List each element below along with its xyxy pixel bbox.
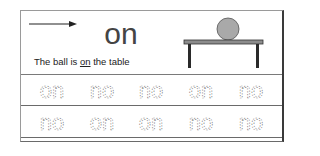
sentence-before: The ball is <box>34 56 80 67</box>
trace-word[interactable]: no <box>82 77 122 103</box>
trace-word[interactable]: no <box>131 77 171 103</box>
trace-word[interactable]: no <box>181 109 221 135</box>
trace-word[interactable]: on <box>181 77 221 103</box>
svg-text:on: on <box>40 78 64 103</box>
sentence-highlight-word: on <box>80 56 91 67</box>
svg-text:no: no <box>139 78 163 103</box>
trace-word[interactable]: on <box>32 77 72 103</box>
sentence-after: the table <box>91 56 130 67</box>
svg-text:no: no <box>189 110 213 135</box>
right-arrow-icon <box>29 21 77 27</box>
svg-text:no: no <box>89 78 113 103</box>
trace-word[interactable]: no <box>32 109 72 135</box>
table-icon <box>184 40 263 68</box>
svg-text:no: no <box>40 110 64 135</box>
trace-word[interactable]: on <box>82 109 122 135</box>
svg-text:on: on <box>89 110 113 135</box>
trace-word[interactable]: no <box>231 77 271 103</box>
trace-row-2: no on on no no <box>21 106 282 138</box>
worksheet-header: on The ball is on the table <box>21 11 282 75</box>
ball-on-table-illustration <box>181 15 265 71</box>
trace-word[interactable]: on <box>131 109 171 135</box>
trace-word[interactable]: no <box>231 109 271 135</box>
trace-row-1: on no no on no <box>21 75 282 106</box>
worksheet: on The ball is on the table on no no on … <box>20 10 284 142</box>
svg-text:no: no <box>239 78 263 103</box>
example-sentence: The ball is on the table <box>34 56 130 67</box>
svg-text:on: on <box>139 110 163 135</box>
svg-text:on: on <box>189 78 213 103</box>
target-word: on <box>101 17 141 51</box>
svg-text:no: no <box>239 110 263 135</box>
ball-icon <box>217 18 239 40</box>
